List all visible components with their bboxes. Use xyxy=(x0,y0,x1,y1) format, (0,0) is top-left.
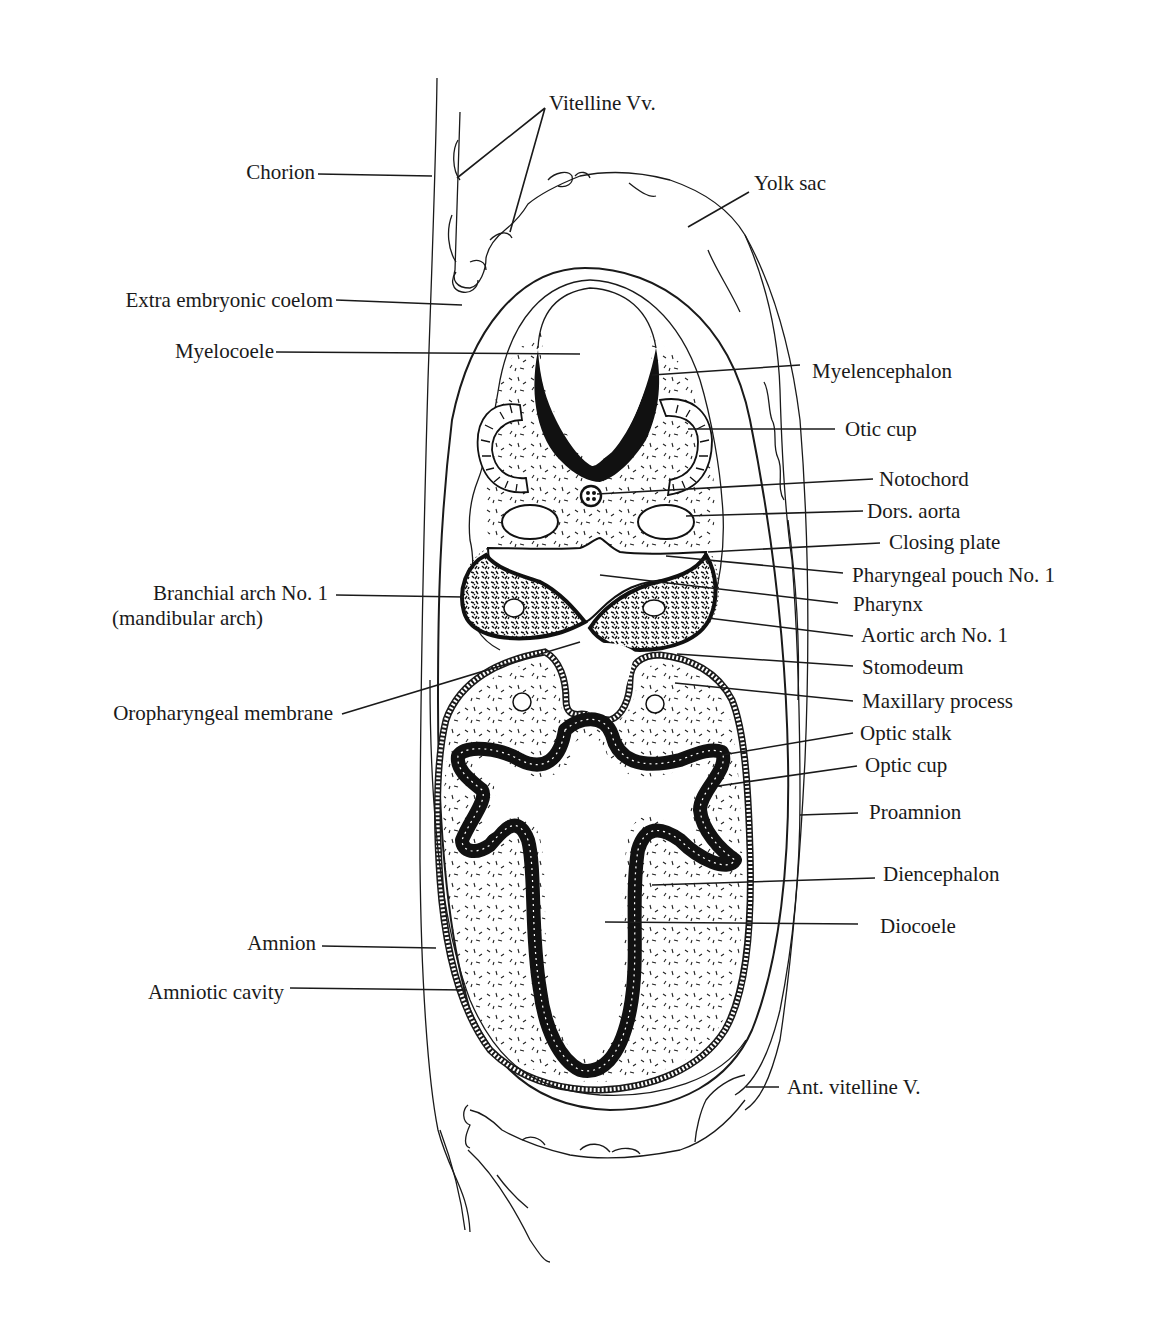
label-proamnion: Proamnion xyxy=(869,800,962,824)
dorsal-aorta-left xyxy=(502,505,558,539)
label-amnion: Amnion xyxy=(247,931,316,955)
label-pharynx: Pharynx xyxy=(853,592,923,616)
label-aortic-arch-1: Aortic arch No. 1 xyxy=(861,623,1008,647)
label-chorion: Chorion xyxy=(246,160,315,184)
embryo-section-diagram: Vitelline Vv. Yolk sac Chorion Extra emb… xyxy=(0,0,1169,1331)
ant-vitelline-vein xyxy=(440,1075,745,1262)
label-optic-stalk: Optic stalk xyxy=(860,721,952,745)
label-notochord: Notochord xyxy=(879,467,969,491)
notochord xyxy=(581,486,601,506)
label-extra-embryonic-coelom: Extra embryonic coelom xyxy=(125,288,333,312)
label-amniotic-cavity: Amniotic cavity xyxy=(148,980,284,1004)
label-vitelline-vv: Vitelline Vv. xyxy=(549,91,656,115)
chorion-membrane xyxy=(420,78,470,1232)
label-closing-plate: Closing plate xyxy=(889,530,1000,554)
label-mandibular-arch: (mandibular arch) xyxy=(112,606,263,630)
label-diocoele: Diocoele xyxy=(880,914,956,938)
label-branchial-arch-1: Branchial arch No. 1 xyxy=(153,581,328,605)
label-otic-cup: Otic cup xyxy=(845,417,917,441)
label-optic-cup: Optic cup xyxy=(865,753,947,777)
label-dors-aorta: Dors. aorta xyxy=(867,499,961,523)
label-diencephalon: Diencephalon xyxy=(883,862,1000,886)
label-ant-vitelline-v: Ant. vitelline V. xyxy=(787,1075,920,1099)
label-maxillary-process: Maxillary process xyxy=(862,689,1013,713)
dorsal-aorta-right xyxy=(638,505,694,539)
label-stomodeum: Stomodeum xyxy=(862,655,964,679)
label-myelocoele: Myelocoele xyxy=(175,339,274,363)
label-yolk-sac: Yolk sac xyxy=(754,171,826,195)
label-oropharyngeal-membrane: Oropharyngeal membrane xyxy=(113,701,333,725)
label-myelencephalon: Myelencephalon xyxy=(812,359,952,383)
label-pharyngeal-pouch-1: Pharyngeal pouch No. 1 xyxy=(852,563,1055,587)
